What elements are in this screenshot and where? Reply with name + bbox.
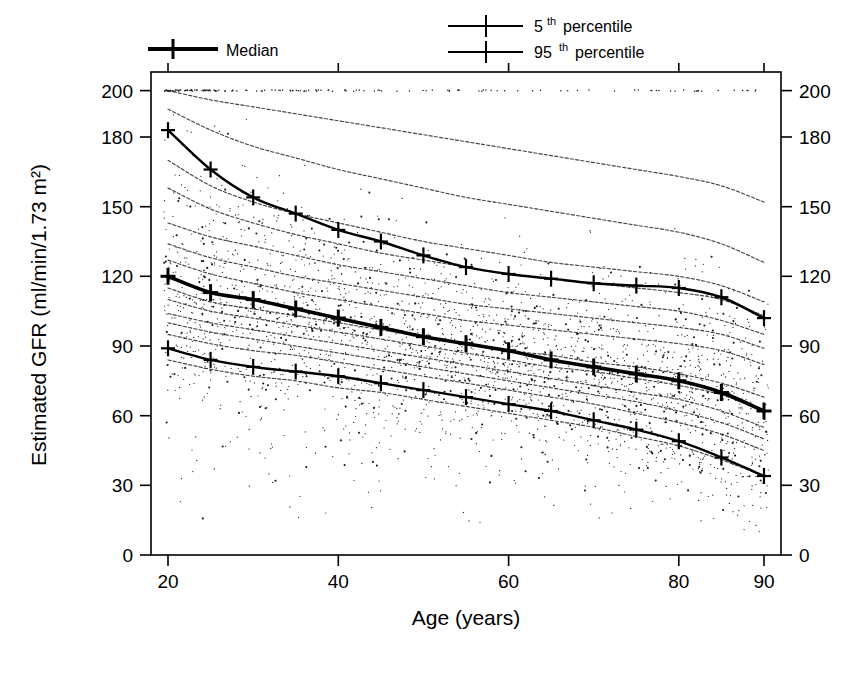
scatter-point: [726, 443, 727, 444]
scatter-point: [700, 369, 701, 370]
scatter-point: [210, 379, 211, 380]
scatter-point: [200, 300, 201, 301]
scatter-point: [191, 233, 192, 234]
scatter-point: [420, 269, 421, 270]
scatter-point: [728, 472, 729, 473]
scatter-point: [599, 429, 600, 430]
scatter-point: [343, 428, 344, 429]
scatter-point: [314, 232, 315, 233]
legend: Median 5 th percentile 95 th percentile: [148, 15, 644, 63]
scatter-point: [378, 283, 379, 284]
scatter-point: [600, 325, 601, 326]
scatter-point: [615, 439, 616, 440]
scatter-point: [505, 342, 507, 344]
scatter-point: [401, 339, 402, 340]
scatter-point: [687, 489, 689, 491]
legend-label-p95: 95: [534, 44, 552, 61]
scatter-point: [422, 360, 423, 361]
scatter-point: [412, 349, 413, 350]
scatter-point: [681, 356, 682, 357]
scatter-point: [721, 478, 722, 479]
scatter-point: [282, 326, 283, 327]
scatter-point: [715, 478, 716, 479]
scatter-point: [635, 449, 636, 450]
legend-item-p5[interactable]: 5 th percentile: [448, 15, 632, 37]
marker-5th-percentile-35: [289, 364, 303, 380]
scatter-point: [319, 241, 320, 242]
scatter-point: [679, 463, 680, 464]
scatter-point: [534, 381, 535, 382]
scatter-point: [234, 250, 235, 251]
scatter-point: [376, 321, 377, 322]
scatter-point: [211, 262, 212, 263]
scatter-point: [617, 381, 618, 382]
scatter-point: [266, 312, 267, 313]
scatter-point: [768, 469, 769, 470]
scatter-point: [264, 274, 265, 275]
scatter-point: [186, 336, 187, 337]
scatter-point: [470, 403, 471, 404]
scatter-point: [470, 329, 471, 330]
scatter-point: [259, 317, 261, 319]
scatter-point: [491, 372, 492, 373]
scatter-point: [371, 452, 372, 453]
scatter-point: [360, 216, 362, 218]
scatter-point: [210, 206, 211, 207]
scatter-point: [533, 338, 534, 339]
scatter-point: [192, 312, 193, 313]
legend-item-p95[interactable]: 95 th percentile: [448, 41, 644, 63]
scatter-point: [401, 198, 402, 199]
scatter-point: [606, 437, 608, 439]
scatter-point: [732, 327, 733, 328]
scatter-point: [451, 320, 452, 321]
scatter-point: [504, 333, 505, 334]
scatter-point: [294, 298, 295, 299]
scatter-point: [308, 324, 309, 325]
scatter-point: [674, 228, 675, 229]
scatter-point: [186, 257, 187, 258]
scatter-point: [695, 375, 696, 376]
scatter-point: [590, 435, 591, 436]
scatter-point-capped: [588, 89, 590, 91]
scatter-point: [344, 464, 346, 466]
scatter-point: [679, 393, 680, 394]
scatter-point: [365, 433, 366, 434]
scatter-point: [340, 304, 342, 306]
scatter-point: [285, 393, 286, 394]
scatter-point: [268, 473, 269, 474]
scatter-point: [315, 262, 316, 263]
scatter-point-capped: [363, 90, 365, 92]
scatter-point: [173, 272, 174, 273]
marker-95th-percentile-35: [289, 206, 303, 222]
scatter-point: [523, 311, 524, 312]
scatter-point: [724, 325, 725, 326]
scatter-point: [242, 411, 243, 412]
scatter-point: [177, 293, 178, 294]
legend-item-median[interactable]: Median: [148, 39, 278, 59]
scatter-point: [673, 395, 675, 397]
scatter-point: [358, 397, 360, 399]
scatter-point: [545, 440, 546, 441]
scatter-point: [291, 226, 292, 227]
scatter-point: [459, 473, 460, 474]
scatter-point: [261, 388, 262, 389]
scatter-point: [396, 408, 397, 409]
scatter-point: [291, 331, 292, 332]
scatter-point: [566, 371, 568, 373]
scatter-point: [171, 374, 172, 375]
scatter-point: [628, 388, 629, 389]
scatter-point: [684, 398, 685, 399]
scatter-point: [569, 424, 571, 426]
scatter-point: [406, 336, 407, 337]
scatter-point: [369, 319, 370, 320]
scatter-point: [345, 293, 346, 294]
scatter-point: [540, 274, 541, 275]
scatter-point: [738, 510, 739, 511]
scatter-point: [559, 437, 560, 438]
scatter-point: [421, 314, 422, 315]
scatter-point: [244, 286, 245, 287]
scatter-point: [624, 491, 625, 492]
scatter-point: [167, 390, 168, 391]
scatter-point: [586, 396, 587, 397]
scatter-point: [762, 444, 763, 445]
